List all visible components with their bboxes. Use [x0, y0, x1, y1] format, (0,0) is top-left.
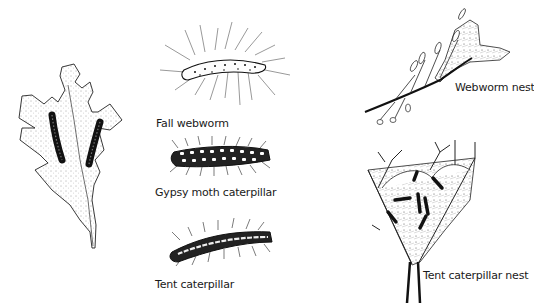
webworm-nest-web	[435, 20, 510, 82]
gypsy-moth-caterpillar-drawing	[170, 136, 270, 176]
fall-webworm-drawing	[160, 22, 290, 105]
drawing-canvas	[0, 0, 534, 303]
oak-leaf	[19, 64, 122, 248]
label-tent-caterpillar-nest: Tent caterpillar nest	[423, 269, 528, 282]
webworm-nest-drawing	[365, 8, 510, 125]
tent-nest-trunk	[407, 262, 420, 303]
oak-leaf-with-caterpillars	[19, 64, 122, 248]
caterpillar-illustration: Fall webworm Gypsy moth caterpillar Tent…	[0, 0, 534, 303]
label-fall-webworm: Fall webworm	[156, 117, 229, 130]
tent-caterpillar-drawing	[170, 218, 272, 266]
label-tent-caterpillar: Tent caterpillar	[155, 278, 234, 291]
label-gypsy-moth-caterpillar: Gypsy moth caterpillar	[155, 186, 276, 199]
label-webworm-nest: Webworm nest	[455, 81, 534, 94]
